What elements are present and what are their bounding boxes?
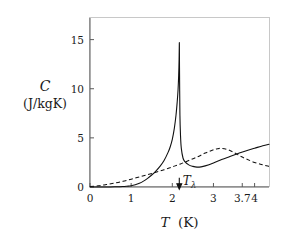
plot-canvas xyxy=(0,0,288,244)
lambda-arrow-head xyxy=(177,184,182,189)
chart-figure: C (J/kgK) T (K) 051015 01233.74 Tλ xyxy=(0,0,288,244)
curves-group xyxy=(90,43,269,187)
series-solid xyxy=(90,43,269,187)
